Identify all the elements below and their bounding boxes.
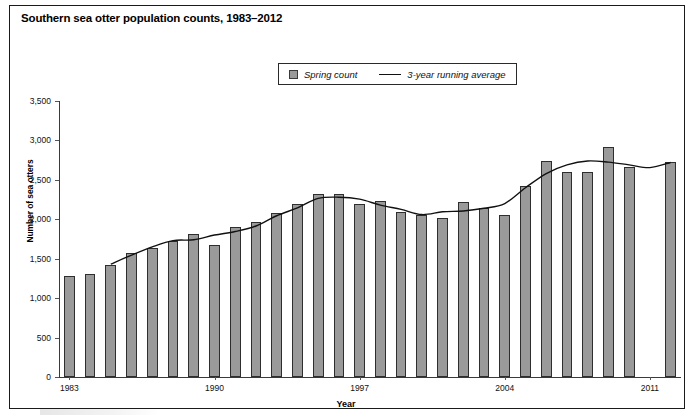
y-tick-label: 3,000 [11,135,51,145]
x-tick-mark [215,377,216,380]
bar [396,212,407,377]
bar [562,172,573,377]
plot-area: Number of sea otters Year 05001,0001,500… [0,0,692,415]
y-tick-mark [55,338,59,339]
bar [354,204,365,377]
bar [313,194,324,377]
bar [520,186,531,377]
bar [188,234,199,377]
bar [437,218,448,377]
bar [603,147,614,377]
y-tick-mark [55,101,59,102]
y-tick-label: 500 [11,333,51,343]
bar [209,245,220,377]
bar [85,274,96,377]
y-tick-label: 1,500 [11,254,51,264]
x-axis-label: Year [0,399,692,409]
bar [105,265,116,377]
bar [168,241,179,377]
x-tick-mark [505,377,506,380]
y-tick-label: 1,000 [11,293,51,303]
bar [541,161,552,377]
x-tick-label: 2004 [495,383,514,393]
bar [416,215,427,377]
bar [147,248,158,377]
chart-figure: Southern sea otter population counts, 19… [0,0,692,415]
x-tick-mark [69,377,70,380]
bar [624,167,635,377]
bar [499,215,510,377]
bar [375,201,386,377]
y-tick-mark [55,180,59,181]
bar [292,204,303,377]
bar [582,172,593,377]
bar [64,276,75,377]
x-tick-mark [360,377,361,380]
bar [458,202,469,377]
bar [665,162,676,377]
y-tick-label: 0 [11,372,51,382]
y-tick-mark [55,377,59,378]
page-footer-artifact [40,409,160,415]
y-tick-mark [55,298,59,299]
y-tick-mark [55,219,59,220]
x-tick-label: 1990 [205,383,224,393]
x-axis-line [59,377,681,378]
y-tick-label: 2,500 [11,175,51,185]
x-tick-label: 1997 [350,383,369,393]
y-tick-mark [55,259,59,260]
y-axis-label: Number of sea otters [25,141,35,261]
bar [251,222,262,377]
bar [230,227,241,377]
bar [334,194,345,377]
x-tick-label: 1983 [60,383,79,393]
bar [479,208,490,377]
x-tick-mark [650,377,651,380]
bar [271,213,282,377]
y-tick-mark [55,140,59,141]
bar [126,253,137,377]
y-tick-label: 2,000 [11,214,51,224]
y-axis-line [59,101,60,377]
x-tick-label: 2011 [641,383,659,393]
y-tick-label: 3,500 [11,96,51,106]
